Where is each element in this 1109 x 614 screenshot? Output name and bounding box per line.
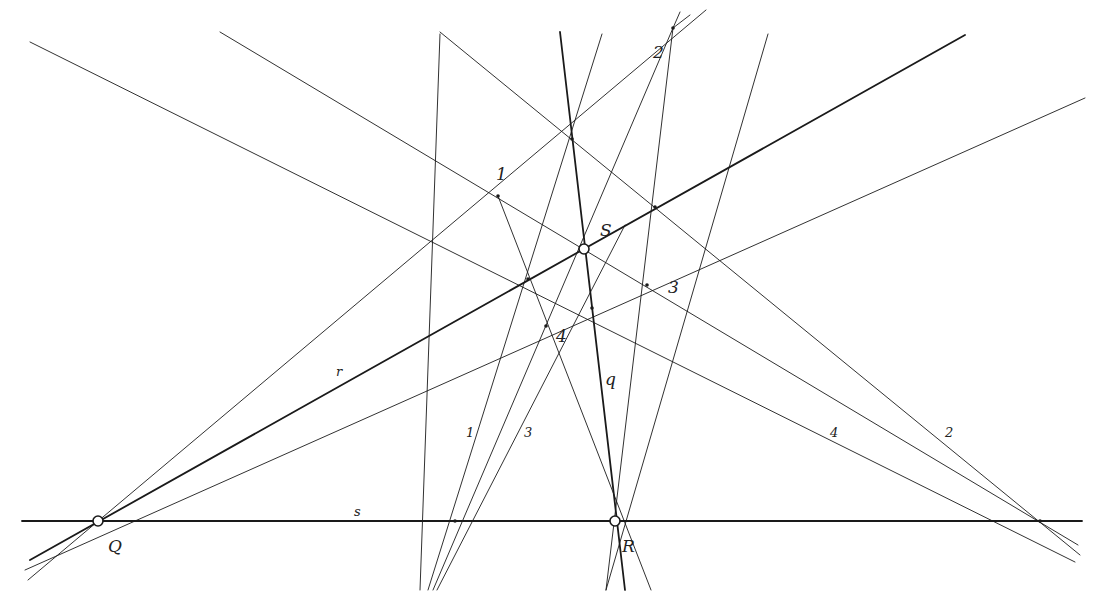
point-w-marker <box>590 306 594 310</box>
line-B-W-V <box>30 42 1075 562</box>
point-labels: QRS2134qrs1342 <box>108 42 953 556</box>
label-r: r <box>336 364 343 379</box>
point-p1-marker <box>496 194 500 198</box>
point-t-marker <box>570 137 574 141</box>
label-4: 4 <box>555 326 567 346</box>
point-p4-marker <box>544 324 548 328</box>
line-A-2 <box>433 28 673 590</box>
point-v-marker <box>526 277 530 281</box>
point-u-marker <box>653 205 657 209</box>
point-s-marker <box>579 244 589 254</box>
point-p3-marker <box>645 283 649 287</box>
point-a-marker <box>453 519 457 523</box>
label-1: 1 <box>466 425 474 440</box>
line-Q-4-3 <box>25 98 1085 570</box>
label-s: S <box>600 220 612 240</box>
label-q: Q <box>108 536 122 556</box>
point-p2-marker <box>671 26 675 30</box>
line-r <box>30 35 965 560</box>
line-Q-1-2 <box>28 10 706 580</box>
point-q-marker <box>93 516 103 526</box>
point-b-marker <box>1038 519 1042 523</box>
label-s: s <box>354 504 361 519</box>
label-2: 2 <box>652 42 664 62</box>
label-r: R <box>621 536 635 556</box>
construction-lines <box>22 10 1085 590</box>
label-1: 1 <box>496 164 507 184</box>
label-3: 3 <box>668 277 679 297</box>
label-4: 4 <box>829 425 838 440</box>
line-A-1 <box>420 34 440 590</box>
label-3: 3 <box>524 425 532 440</box>
line-R-U <box>606 34 768 590</box>
label-2: 2 <box>944 425 953 440</box>
line-B-3-1 <box>220 32 1078 545</box>
point-r-marker <box>610 516 620 526</box>
line-R-2 <box>606 28 673 590</box>
line-A-T <box>428 34 602 590</box>
projective-geometry-diagram: QRS2134qrs1342 <box>0 0 1109 614</box>
label-q: q <box>605 369 616 389</box>
